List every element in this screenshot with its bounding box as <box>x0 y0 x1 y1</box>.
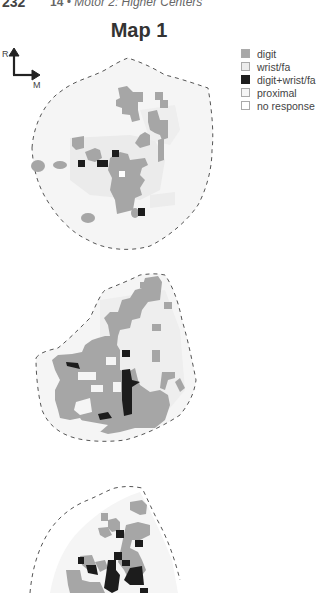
map-2 <box>36 274 196 441</box>
digit-swatch-icon <box>241 49 250 58</box>
compass-label-rostral: R <box>2 49 9 59</box>
wrist-fa-swatch-icon <box>241 62 250 71</box>
proximal-swatch-icon <box>241 88 250 97</box>
legend-label: digit+wrist/fa <box>257 74 316 86</box>
map-3 <box>30 487 180 593</box>
compass-label-medial: M <box>33 80 41 90</box>
legend-label: proximal <box>257 87 297 99</box>
compass-icon <box>9 48 40 80</box>
digit-wrist-fa-swatch-icon <box>241 75 250 84</box>
legend-item-no-response: no response <box>241 99 316 112</box>
legend-label: digit <box>257 48 276 60</box>
legend-item-digit-wrist-fa: digit+wrist/fa <box>241 73 316 86</box>
legend-label: wrist/fa <box>257 61 290 73</box>
legend-item-digit: digit <box>241 47 316 60</box>
legend-item-proximal: proximal <box>241 86 316 99</box>
legend-item-wrist-fa: wrist/fa <box>241 60 316 73</box>
legend: digit wrist/fa digit+wrist/fa proximal n… <box>241 47 316 112</box>
no-response-swatch-icon <box>241 101 250 110</box>
legend-label: no response <box>257 100 315 112</box>
map-1 <box>31 58 213 249</box>
